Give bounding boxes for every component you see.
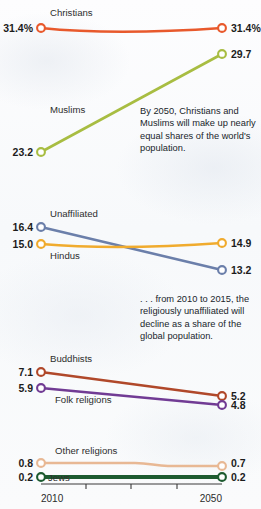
value-jews-2010: 0.2 <box>18 471 33 483</box>
annotation-christians-muslims: By 2050, Christians and Muslims will mak… <box>140 105 256 155</box>
series-label-unaffiliated: Unaffiliated <box>50 208 98 219</box>
value-muslims-2010: 23.2 <box>13 146 34 158</box>
marker-buddhists-2050 <box>218 392 226 400</box>
series-line-other-religions <box>41 463 222 466</box>
series-label-christians: Christians <box>50 7 93 18</box>
slope-chart-figure: 31.4% 31.4% 23.2 29.7 Christians Muslims… <box>0 0 261 509</box>
marker-folk-religions-2050 <box>218 401 226 409</box>
series-label-muslims: Muslims <box>50 104 85 115</box>
annotation-unaffiliated-decline: . . . from 2010 to 2015, the religiously… <box>140 293 258 343</box>
marker-other-religions-2050 <box>218 462 226 470</box>
series-line-buddhists <box>41 372 222 396</box>
marker-hindus-2050 <box>218 239 226 247</box>
panel-unaffiliated-hindus: 16.4 13.2 15.0 14.9 Unaffiliated Hindus <box>13 208 252 276</box>
series-line-christians <box>41 28 222 32</box>
series-label-hindus: Hindus <box>50 250 80 261</box>
value-hindus-2050: 14.9 <box>231 237 252 249</box>
marker-other-religions-2010 <box>37 459 45 467</box>
value-christians-2010: 31.4% <box>3 22 33 34</box>
value-muslims-2050: 29.7 <box>231 48 252 60</box>
slope-chart-svg: 31.4% 31.4% 23.2 29.7 Christians Muslims… <box>0 0 261 509</box>
marker-folk-religions-2010 <box>37 384 45 392</box>
marker-muslims-2010 <box>37 148 45 156</box>
marker-unaffiliated-2050 <box>218 266 226 274</box>
series-label-jews: Jews <box>48 472 70 483</box>
x-axis: 2010 2050 <box>41 484 222 504</box>
panel-other-jews: 0.8 0.7 0.2 0.2 Other religions Jews <box>18 445 245 483</box>
series-label-folk-religions: Folk religions <box>55 394 112 405</box>
value-unaffiliated-2010: 16.4 <box>13 221 34 233</box>
value-buddhists-2010: 7.1 <box>18 366 33 378</box>
value-folk-religions-2010: 5.9 <box>18 382 33 394</box>
axis-label-year-end: 2050 <box>200 493 223 504</box>
value-other-religions-2050: 0.7 <box>231 457 246 469</box>
marker-jews-2050 <box>218 473 226 481</box>
marker-hindus-2010 <box>37 240 45 248</box>
value-folk-religions-2050: 4.8 <box>231 399 246 411</box>
panel-buddhists-folk: 7.1 5.2 5.9 4.8 Buddhists Folk religions <box>18 353 245 411</box>
value-other-religions-2010: 0.8 <box>18 457 33 469</box>
value-christians-2050: 31.4% <box>231 22 261 34</box>
series-line-hindus <box>41 243 222 247</box>
marker-christians-2050 <box>218 24 226 32</box>
value-jews-2050: 0.2 <box>231 471 246 483</box>
series-line-unaffiliated <box>41 227 222 270</box>
marker-buddhists-2010 <box>37 368 45 376</box>
axis-label-year-start: 2010 <box>41 493 64 504</box>
value-hindus-2010: 15.0 <box>13 238 34 250</box>
series-label-other-religions: Other religions <box>55 445 118 456</box>
value-unaffiliated-2050: 13.2 <box>231 264 252 276</box>
marker-christians-2010 <box>37 24 45 32</box>
marker-muslims-2050 <box>218 50 226 58</box>
series-label-buddhists: Buddhists <box>50 353 92 364</box>
marker-jews-2010 <box>37 473 45 481</box>
marker-unaffiliated-2010 <box>37 223 45 231</box>
